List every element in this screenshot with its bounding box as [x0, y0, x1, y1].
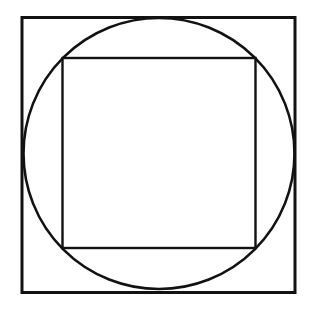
canvas-background: [0, 0, 313, 311]
geometric-figure-svg: [0, 0, 313, 311]
figure-canvas: [0, 0, 313, 311]
